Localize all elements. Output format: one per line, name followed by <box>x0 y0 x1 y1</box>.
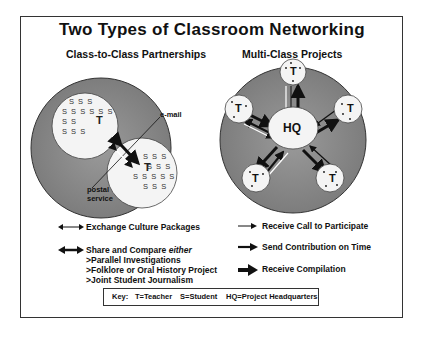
postal-label: postal service <box>87 185 113 203</box>
key-box: Key: T=Teacher S=Student HQ=Project Head… <box>103 288 319 306</box>
share-sub-items: >Parallel Investigations >Folklore or Or… <box>86 255 217 285</box>
class-a-row: S S S <box>62 97 113 107</box>
medium-arrow-icon <box>236 242 258 252</box>
t-node-bottom-left-label: T <box>252 172 259 184</box>
postal-label-line-2: service <box>87 194 113 203</box>
class-b-row: S S S S S <box>133 172 175 182</box>
class-b-row: S S S <box>138 182 175 192</box>
class-a-students: S S S S S S S S S S S S S S <box>62 97 113 137</box>
postal-label-line-1: postal <box>87 185 113 194</box>
legend-share-label: Share and Compare either <box>86 245 192 255</box>
t-node-top-label: T <box>290 65 297 77</box>
multi-class-diagram <box>220 59 366 213</box>
legend-receive-compilation-label: Receive Compilation <box>262 264 346 274</box>
hq-label: HQ <box>283 121 301 135</box>
legend-exchange-label: Exchange Culture Packages <box>86 222 200 232</box>
t-node-right-label: T <box>347 102 354 114</box>
legend-send-contribution-label: Send Contribution on Time <box>262 242 371 252</box>
t-node-left-label: T <box>235 102 242 114</box>
key-label: Key: <box>112 289 128 305</box>
share-sub-item: >Joint Student Journalism <box>86 275 217 285</box>
share-sub-item: >Parallel Investigations <box>86 255 217 265</box>
class-a-row: S S <box>62 117 113 127</box>
key-student: S=Student <box>180 289 217 305</box>
thick-double-arrow-icon <box>58 245 84 255</box>
class-a-teacher: T <box>96 114 103 126</box>
share-label-emphasis: either <box>169 245 192 255</box>
thin-arrow-icon <box>236 221 258 231</box>
t-node-bottom-right-label: T <box>329 172 336 184</box>
share-label-text: Share and Compare <box>86 245 166 255</box>
thin-double-arrow-icon <box>58 222 84 232</box>
email-label: e-mail <box>160 110 182 119</box>
key-hq: HQ=Project Headquarters <box>226 289 318 305</box>
class-b-teacher: T <box>144 161 151 173</box>
legend-receive-call-label: Receive Call to Participate <box>262 221 368 231</box>
key-teacher: T=Teacher <box>135 289 172 305</box>
thick-arrow-icon <box>236 264 258 276</box>
class-a-row: S S S S S S <box>62 107 113 117</box>
class-a-row: S S S <box>62 127 113 137</box>
share-sub-item: >Folklore or Oral History Project <box>86 265 217 275</box>
